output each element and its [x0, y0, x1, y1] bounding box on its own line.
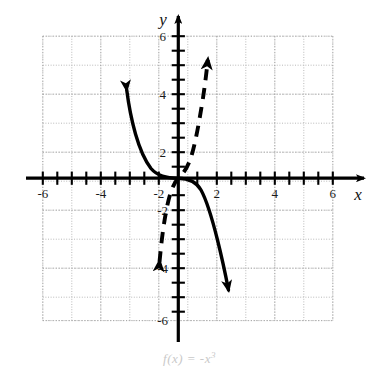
x-tick-label: -6 [37, 186, 48, 201]
graph-figure: -6 -4 -2 2 4 6 6 4 2 -2 -4 -6 x y f(x) =… [0, 0, 379, 367]
x-tick-label: -2 [153, 186, 164, 201]
dashed-curve [160, 60, 208, 262]
x-tick-label: -4 [95, 186, 106, 201]
caption-text: f(x) = -x [163, 351, 211, 366]
coordinate-plane: -6 -4 -2 2 4 6 6 4 2 -2 -4 -6 x y [0, 0, 379, 367]
y-tick-label: -4 [157, 261, 168, 276]
x-tick-label: 2 [214, 186, 221, 201]
y-tick-label: 6 [160, 29, 167, 44]
y-axis-label: y [157, 10, 167, 29]
caption-exponent: 3 [211, 350, 216, 360]
x-tick-label: 6 [330, 186, 337, 201]
x-axis-label: x [353, 185, 362, 204]
x-tick-labels: -6 -4 -2 2 4 6 [37, 186, 336, 201]
y-tick-label: 4 [160, 87, 167, 102]
figure-caption: f(x) = -x3 [0, 350, 379, 367]
x-tick-label: 4 [272, 186, 279, 201]
y-tick-label: 2 [160, 145, 167, 160]
y-tick-label: -6 [157, 313, 168, 328]
